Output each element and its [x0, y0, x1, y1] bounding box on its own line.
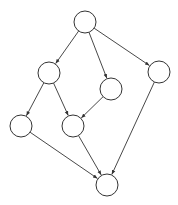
node-n0	[74, 11, 96, 33]
node-n5	[62, 115, 84, 137]
edge-n5-n6	[78, 136, 101, 176]
node-n6	[96, 174, 118, 196]
node-n3	[148, 61, 170, 83]
dag-diagram	[0, 0, 178, 205]
edge-n4-n6	[30, 132, 97, 178]
node-n2	[100, 78, 122, 100]
edge-n0-n2	[89, 32, 107, 78]
node-n1	[38, 62, 60, 84]
nodes-group	[10, 11, 170, 196]
node-n4	[10, 115, 32, 137]
edge-n0-n1	[56, 31, 79, 64]
edge-n0-n3	[94, 28, 149, 65]
edge-n1-n5	[54, 83, 69, 116]
edge-n2-n5	[81, 97, 103, 118]
edge-n1-n4	[26, 83, 43, 116]
edges-group	[26, 28, 154, 178]
